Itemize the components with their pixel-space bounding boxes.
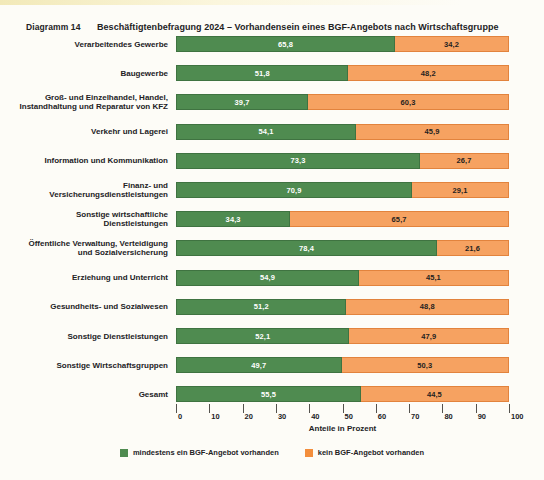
table-row: Finanz- undVersicherungsdienstleistungen… [0,182,544,198]
bar-value-label: 51,2 [254,302,269,311]
category-label-line: Information und Kommunikation [8,156,168,166]
bar-segment-orange[interactable]: 48,2 [348,65,509,81]
table-row: Gesundheits- und Sozialwesen51,248,8 [0,299,544,315]
bar-segment-green[interactable]: 55,5 [176,386,361,402]
bar-segment-green[interactable]: 49,7 [176,357,342,373]
bar-value-label: 65,8 [278,40,293,49]
bar-segment-orange[interactable]: 60,3 [308,94,509,110]
figure-number: Diagramm 14 [26,22,81,32]
axis-tick-label: 50 [345,412,353,421]
bar-value-label: 50,3 [417,361,432,370]
bar-segment-orange[interactable]: 21,6 [437,240,509,256]
legend-label: mindestens ein BGF-Angebot vorhanden [133,448,279,457]
bar-segment-green[interactable]: 70,9 [176,182,412,198]
bar-segment-orange[interactable]: 45,9 [356,124,509,140]
axis-tick-mark [409,404,410,413]
bar-segment-orange[interactable]: 48,8 [346,299,509,315]
table-row: Gesamt55,544,5 [0,386,544,402]
bar-segment-green[interactable]: 39,7 [176,94,308,110]
bar-value-label: 45,9 [425,127,440,136]
table-row: Sonstige Wirtschaftsgruppen49,750,3 [0,357,544,373]
axis-tick-mark [476,404,477,413]
chart-page: Diagramm 14 Beschäftigtenbefragung 2024 … [0,0,544,480]
axis-tick-label: 10 [211,412,219,421]
bar-segment-green[interactable]: 34,3 [176,211,290,227]
bar-value-label: 45,1 [426,273,441,282]
category-label-line: und Sozialversicherung [8,248,168,258]
legend-item[interactable]: mindestens ein BGF-Angebot vorhanden [120,448,279,457]
bar-segment-green[interactable]: 78,4 [176,240,437,256]
bar-segment-green[interactable]: 54,1 [176,124,356,140]
axis-tick-mark [209,404,210,413]
legend-item[interactable]: kein BGF-Angebot vorhanden [305,448,424,457]
bar-segment-orange[interactable]: 47,9 [349,328,509,344]
axis-tick-mark [343,404,344,413]
category-label: Sonstige wirtschaftlicheDienstleistungen [8,210,168,229]
table-row: Verarbeitendes Gewerbe65,834,2 [0,36,544,52]
category-label-line: Baugewerbe [8,69,168,79]
stacked-bar: 73,326,7 [176,153,509,169]
bar-segment-green[interactable]: 65,8 [176,36,395,52]
stacked-bar: 65,834,2 [176,36,509,52]
category-label: Erziehung und Unterricht [8,273,168,283]
page-title: Beschäftigtenbefragung 2024 – Vorhandens… [97,22,499,32]
axis-tick-label: 80 [444,412,452,421]
stacked-bar: 54,145,9 [176,124,509,140]
category-label-line: Groß- und Einzelhandel, Handel, [8,93,168,103]
category-label: Sonstige Dienstleistungen [8,332,168,342]
bar-value-label: 78,4 [299,244,314,253]
bar-segment-orange[interactable]: 34,2 [395,36,509,52]
stacked-bar: 52,147,9 [176,328,509,344]
bar-value-label: 54,1 [259,127,274,136]
stacked-bar: 51,848,2 [176,65,509,81]
bar-value-label: 70,9 [287,186,302,195]
bar-value-label: 44,5 [427,390,442,399]
category-label-line: Gesundheits- und Sozialwesen [8,302,168,312]
bar-segment-orange[interactable]: 44,5 [361,386,509,402]
category-label: Finanz- undVersicherungsdienstleistungen [8,181,168,200]
bar-segment-orange[interactable]: 29,1 [412,182,509,198]
table-row: Baugewerbe51,848,2 [0,65,544,81]
category-label-line: Verkehr und Lagerei [8,127,168,137]
bar-value-label: 21,6 [465,244,480,253]
stacked-bar: 78,421,6 [176,240,509,256]
category-label-line: Öffentliche Verwaltung, Verteidigung [8,239,168,249]
legend-swatch-green-icon [120,449,128,457]
bar-value-label: 34,2 [444,40,459,49]
axis-tick-mark [309,404,310,413]
stacked-bar: 55,544,5 [176,386,509,402]
stacked-bar: 34,365,7 [176,211,509,227]
bar-value-label: 60,3 [401,98,416,107]
category-label-line: Dienstleistungen [8,219,168,229]
bar-value-label: 47,9 [421,332,436,341]
x-axis: 0102030405060708090100 [176,404,509,422]
bar-segment-green[interactable]: 51,2 [176,299,346,315]
bar-segment-green[interactable]: 73,3 [176,153,420,169]
stacked-bar: 70,929,1 [176,182,509,198]
stacked-bar: 39,760,3 [176,94,509,110]
axis-tick-label: 40 [311,412,319,421]
bar-segment-green[interactable]: 52,1 [176,328,349,344]
bar-segment-orange[interactable]: 26,7 [420,153,509,169]
bar-segment-orange[interactable]: 65,7 [290,211,509,227]
bar-segment-orange[interactable]: 50,3 [342,357,509,373]
table-row: Information und Kommunikation73,326,7 [0,153,544,169]
category-label-line: Gesamt [8,390,168,400]
table-row: Verkehr und Lagerei54,145,9 [0,124,544,140]
category-label-line: Sonstige wirtschaftliche [8,210,168,220]
category-label: Gesamt [8,390,168,400]
bar-segment-green[interactable]: 54,9 [176,270,359,286]
category-label: Verarbeitendes Gewerbe [8,40,168,50]
bar-value-label: 26,7 [457,156,472,165]
bar-value-label: 39,7 [235,98,250,107]
bar-segment-green[interactable]: 51,8 [176,65,348,81]
bar-segment-orange[interactable]: 45,1 [359,270,509,286]
table-row: Sonstige wirtschaftlicheDienstleistungen… [0,211,544,227]
axis-tick-mark [509,404,510,413]
category-label: Groß- und Einzelhandel, Handel,Instandha… [8,93,168,112]
axis-tick-mark [442,404,443,413]
axis-tick-mark [176,404,177,413]
axis-tick-label: 0 [178,412,182,421]
bar-value-label: 34,3 [226,215,241,224]
category-label-line: Sonstige Wirtschaftsgruppen [8,361,168,371]
